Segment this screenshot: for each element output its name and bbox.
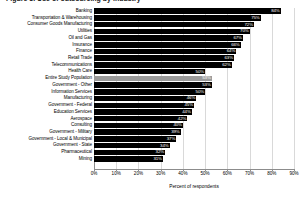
chart-container: Figure 3. Use of outsourcing by industry…	[0, 0, 307, 214]
bar-row: 53%	[94, 75, 294, 82]
bar-value-label: 75%	[251, 15, 260, 21]
bar-row: 66%	[94, 42, 294, 49]
bar-track: 75%	[94, 15, 294, 21]
category-label-row: Government - State	[0, 142, 94, 149]
bar-track: 42%	[94, 116, 294, 122]
category-label: Government - State	[0, 142, 94, 149]
bar-track: 50%	[94, 69, 294, 75]
bar-row: 34%	[94, 142, 294, 149]
bar: 72%	[94, 22, 254, 28]
category-label-row: Aerospace	[0, 116, 94, 123]
bar-value-label: 53%	[202, 75, 211, 81]
x-tick-label: 50%	[201, 171, 210, 176]
category-label-row: Insurance	[0, 42, 94, 49]
category-label: Consumer Goods Manufacturing	[0, 21, 94, 28]
bar-value-label: 46%	[187, 95, 196, 101]
bar-value-label: 63%	[225, 55, 234, 61]
bar-track: 62%	[94, 62, 294, 68]
category-label: Manufacturing	[0, 95, 94, 102]
category-label: Government - Federal	[0, 102, 94, 109]
bar-track: 37%	[94, 136, 294, 142]
bar: 40%	[94, 123, 183, 129]
bar-track: 84%	[94, 8, 294, 14]
bar-track: 72%	[94, 22, 294, 28]
bar-track: 70%	[94, 29, 294, 35]
category-label-row: Utilities	[0, 28, 94, 35]
bar-value-label: 50%	[196, 89, 205, 95]
bar-value-label: 40%	[173, 122, 182, 128]
bar-row: 62%	[94, 62, 294, 69]
bar-track: 32%	[94, 150, 294, 156]
bar-track: 53%	[94, 76, 294, 82]
bar-value-label: 84%	[271, 8, 280, 14]
bar-rows: 84%75%72%70%67%66%64%63%62%50%53%53%50%4…	[94, 8, 294, 163]
category-label-row: Finance	[0, 48, 94, 55]
category-label: Utilities	[0, 28, 94, 35]
bar-track: 44%	[94, 109, 294, 115]
bar: 64%	[94, 49, 236, 55]
x-tick-label: 40%	[178, 171, 187, 176]
category-label-row: Transportation & Warehousing	[0, 15, 94, 22]
bar-track: 39%	[94, 129, 294, 135]
bar-value-label: 66%	[231, 42, 240, 48]
bar-row: 53%	[94, 82, 294, 89]
category-label-row: Consulting	[0, 122, 94, 129]
x-axis-ticks: 0%10%20%30%40%50%60%70%80%90%	[94, 171, 294, 181]
bar-row: 50%	[94, 89, 294, 96]
bar-track: 50%	[94, 89, 294, 95]
bar-value-label: 31%	[153, 156, 162, 162]
bar-row: 67%	[94, 35, 294, 42]
bar: 75%	[94, 15, 261, 21]
category-label-row: Consumer Goods Manufacturing	[0, 21, 94, 28]
plot-right-border	[294, 8, 295, 169]
category-label-row: Banking	[0, 8, 94, 15]
x-tick-label: 10%	[112, 171, 121, 176]
bar: 66%	[94, 42, 241, 48]
category-label-row: Telecommunications	[0, 62, 94, 69]
category-label-row: Pharmaceutical	[0, 149, 94, 156]
category-label-row: Government - Local & Municipal	[0, 136, 94, 143]
bar-track: 66%	[94, 42, 294, 48]
bar-row: 63%	[94, 55, 294, 62]
bar-value-label: 32%	[156, 149, 165, 155]
category-label: Retail Trade	[0, 55, 94, 62]
bar: 42%	[94, 116, 187, 122]
bar-value-label: 50%	[196, 69, 205, 75]
x-tick-label: 60%	[223, 171, 232, 176]
bar-track: 34%	[94, 143, 294, 149]
category-label-row: Entire Study Population	[0, 75, 94, 82]
bar-value-label: 72%	[245, 22, 254, 28]
chart-title-clipped: Figure 3. Use of outsourcing by industry	[0, 0, 307, 7]
bar: 63%	[94, 55, 234, 61]
bar-row: 40%	[94, 122, 294, 129]
bar-highlighted: 53%	[94, 76, 212, 82]
bar: 62%	[94, 62, 232, 68]
category-label-row: Government - Other	[0, 82, 94, 89]
bar: 50%	[94, 69, 205, 75]
bar-track: 63%	[94, 55, 294, 61]
bar: 84%	[94, 8, 281, 14]
category-label-row: Government - Military	[0, 129, 94, 136]
category-label-row: Government - Federal	[0, 102, 94, 109]
x-tick-label: 90%	[289, 171, 298, 176]
bar-row: 31%	[94, 156, 294, 163]
bar: 34%	[94, 143, 170, 149]
x-axis-label: Percent of respondents	[94, 184, 294, 189]
bar-row: 39%	[94, 129, 294, 136]
bar: 32%	[94, 150, 165, 156]
category-label-row: Education Services	[0, 109, 94, 116]
bar-value-label: 62%	[222, 62, 231, 68]
category-label: Insurance	[0, 42, 94, 49]
bar: 70%	[94, 29, 250, 35]
bar-row: 75%	[94, 15, 294, 22]
category-label: Entire Study Population	[0, 75, 94, 82]
bar-value-label: 64%	[227, 48, 236, 54]
bar-value-label: 44%	[182, 109, 191, 115]
chart-title: Figure 3. Use of outsourcing by industry	[6, 0, 141, 2]
bar-value-label: 53%	[202, 82, 211, 88]
bar: 50%	[94, 89, 205, 95]
bar: 53%	[94, 82, 212, 88]
category-label: Pharmaceutical	[0, 149, 94, 156]
bar-value-label: 42%	[178, 116, 187, 122]
category-label-row: Information Services	[0, 89, 94, 96]
